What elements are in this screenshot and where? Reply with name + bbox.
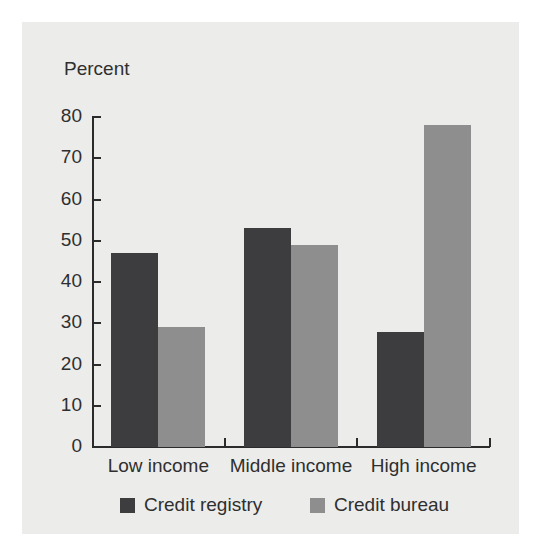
legend-label: Credit bureau bbox=[334, 494, 449, 516]
x-axis-tick bbox=[224, 438, 226, 447]
y-axis-tick-label: 20 bbox=[36, 353, 82, 375]
bar bbox=[244, 228, 291, 447]
legend-item[interactable]: Credit registry bbox=[120, 493, 262, 517]
y-axis-tick bbox=[92, 157, 101, 159]
y-axis-title: Percent bbox=[64, 58, 129, 80]
bar bbox=[377, 332, 424, 448]
plot-area: Percent 80706050403020100 Low incomeMidd… bbox=[0, 0, 541, 555]
bar bbox=[424, 125, 471, 447]
y-axis-tick bbox=[92, 116, 101, 118]
y-axis-tick bbox=[92, 364, 101, 366]
y-axis-tick bbox=[92, 281, 101, 283]
x-axis-tick bbox=[356, 438, 358, 447]
chart-legend: Credit registryCredit bureau bbox=[92, 493, 490, 519]
legend-item[interactable]: Credit bureau bbox=[310, 493, 449, 517]
legend-swatch bbox=[310, 498, 325, 513]
y-axis-tick bbox=[92, 240, 101, 242]
x-axis-tick bbox=[489, 438, 491, 447]
legend-label: Credit registry bbox=[144, 494, 262, 516]
y-axis-tick-label: 50 bbox=[36, 229, 82, 251]
bar bbox=[111, 253, 158, 447]
y-axis-tick-label: 60 bbox=[36, 188, 82, 210]
y-axis-tick-label: 30 bbox=[36, 311, 82, 333]
y-axis-tick-label: 40 bbox=[36, 270, 82, 292]
bar bbox=[291, 245, 338, 447]
x-axis-category-label: Middle income bbox=[225, 455, 358, 477]
y-axis-tick bbox=[92, 405, 101, 407]
y-axis-tick bbox=[92, 322, 101, 324]
y-axis-tick-label: 0 bbox=[36, 435, 82, 457]
legend-swatch bbox=[120, 498, 135, 513]
y-axis-tick-label: 10 bbox=[36, 394, 82, 416]
bar bbox=[158, 327, 205, 447]
x-axis-category-label: High income bbox=[357, 455, 490, 477]
y-axis-tick bbox=[92, 446, 101, 448]
figure: Percent 80706050403020100 Low incomeMidd… bbox=[0, 0, 541, 555]
y-axis-tick bbox=[92, 199, 101, 201]
y-axis-tick-label: 70 bbox=[36, 146, 82, 168]
y-axis-tick-label: 80 bbox=[36, 105, 82, 127]
x-axis-category-label: Low income bbox=[92, 455, 225, 477]
